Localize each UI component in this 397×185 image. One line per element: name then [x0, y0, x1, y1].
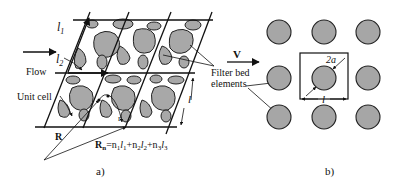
R-label: R — [55, 131, 63, 142]
l2-label: l2 — [56, 52, 63, 68]
panel-a: l1 l2 Flow Unit cell R r l Rn=n1l1+n2l2+… — [17, 12, 213, 178]
panel-b-caption: b) — [325, 165, 335, 178]
panel-a-caption: a) — [96, 165, 105, 178]
unit-cell-label: Unit cell — [17, 91, 52, 102]
two-a-label: 2a — [326, 54, 336, 65]
filter-bed-diagram: l1 l2 Flow Unit cell R r l Rn=n1l1+n2l2+… — [0, 0, 397, 185]
V-label: V — [233, 48, 241, 60]
r-label: r — [118, 113, 121, 123]
l-spacing-label: l — [188, 93, 191, 105]
flow-label: Flow — [26, 66, 47, 77]
l-label-b: l — [322, 93, 325, 105]
panel-b: V 2a l b) — [227, 20, 380, 178]
filter-bed-label-line1: Filter bed — [211, 67, 250, 78]
Rn-formula: Rn=n1l1+n2l2+n3l3 — [95, 139, 168, 152]
l1-label: l1 — [57, 20, 64, 36]
filter-bed-label-line2: elements — [211, 78, 247, 89]
disc-grid — [267, 20, 380, 129]
filter-grains — [58, 19, 201, 122]
